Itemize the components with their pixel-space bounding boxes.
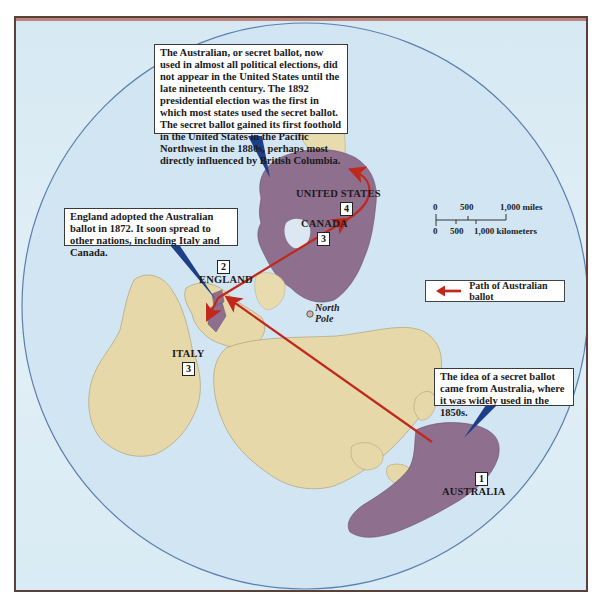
us-callout: The Australian, or secret ballot, now us… (154, 44, 348, 134)
label-italy: ITALY (172, 348, 205, 359)
step-badge-england: 2 (217, 260, 230, 274)
step-badge-australia: 1 (475, 472, 488, 486)
england-callout: England adopted the Australian ballot in… (64, 208, 238, 246)
label-england: ENGLAND (199, 274, 253, 285)
label-canada: CANADA (301, 218, 348, 229)
map-legend: Path of Australian ballot (425, 280, 565, 302)
australia-callout: The idea of a secret ballot came from Au… (434, 368, 574, 406)
scale-miles-0: 0 (433, 202, 438, 212)
scale-km-0: 0 (433, 226, 438, 236)
red-arrow-left-icon (436, 284, 461, 298)
legend-label: Path of Australian ballot (469, 280, 564, 302)
label-australia: AUSTRALIA (442, 486, 506, 497)
scale-miles-500: 500 (460, 202, 474, 212)
north-pole-label: North Pole (315, 302, 339, 324)
step-badge-italy: 3 (182, 362, 195, 376)
scale-km-1000: 1,000 kilometers (474, 226, 537, 236)
step-badge-canada: 3 (317, 232, 330, 246)
label-united-states: UNITED STATES (296, 188, 381, 199)
north-pole-marker (307, 311, 313, 317)
scale-km-500: 500 (450, 226, 464, 236)
map-frame: The Australian, or secret ballot, now us… (14, 16, 588, 592)
step-badge-united-states: 4 (340, 202, 353, 216)
scale-miles-1000: 1,000 miles (500, 202, 543, 212)
